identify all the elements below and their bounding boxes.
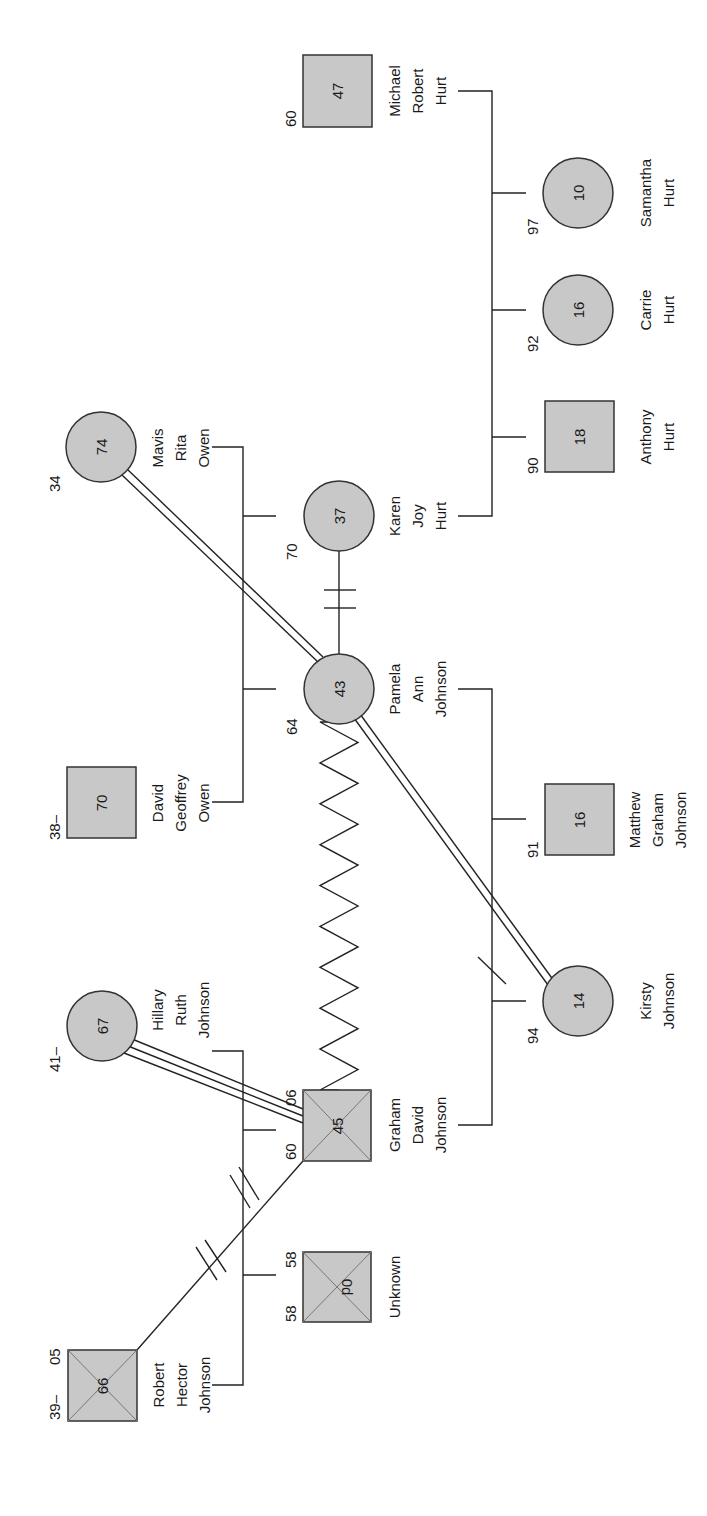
name-line-2: Hurt <box>660 422 677 451</box>
name-line-1: Carrie <box>637 290 654 331</box>
person-mavis[interactable]: 74 34 Mavis Rita Owen <box>46 412 212 492</box>
name-line-2: Hurt <box>660 295 677 324</box>
name-line-2: Ann <box>409 676 426 703</box>
death-year: 05 <box>46 1348 63 1365</box>
age-label: 18 <box>571 429 588 446</box>
name-line-1: Matthew <box>626 791 643 848</box>
age-label: 14 <box>570 993 587 1010</box>
name-line-1: Anthony <box>637 409 654 465</box>
person-michael[interactable]: 47 60 Michael Robert Hurt <box>282 55 449 127</box>
name-line-1: Unknown <box>386 1256 403 1319</box>
family-line-david-mavis <box>212 447 276 802</box>
name-line-3: Owen <box>195 428 212 467</box>
birth-year: 38– <box>46 814 63 840</box>
person-david[interactable]: 70 38– David Geoffrey Owen <box>46 767 212 840</box>
person-karen[interactable]: 37 70 Karen Joy Hurt <box>283 481 449 560</box>
person-graham[interactable]: 45 60 06 Graham David Johnson <box>282 1089 449 1161</box>
name-line-3: Johnson <box>672 792 689 849</box>
name-line-1: Karen <box>386 496 403 536</box>
age-label: 16 <box>571 812 588 829</box>
birth-year: 60 <box>282 110 299 127</box>
name-line-3: Johnson <box>432 1097 449 1154</box>
age-label: 70 <box>93 795 110 812</box>
person-anthony[interactable]: 18 90 Anthony Hurt <box>524 401 677 474</box>
name-line-2: Geoffrey <box>172 774 189 832</box>
name-line-2: Rita <box>172 434 189 461</box>
person-unknown[interactable]: 0d 58 58 Unknown <box>282 1251 403 1322</box>
name-line-1: Pamela <box>386 663 403 715</box>
death-year: 58 <box>282 1251 299 1268</box>
relationship-pamela-karen-cutoff <box>324 551 356 654</box>
age-label: 67 <box>94 1018 111 1035</box>
name-line-1: Samantha <box>637 158 654 227</box>
name-line-2: Joy <box>409 504 426 528</box>
birth-year: 64 <box>283 718 300 735</box>
birth-year: 92 <box>524 335 541 352</box>
name-line-3: Hurt <box>432 501 449 530</box>
person-matthew[interactable]: 16 91 Matthew Graham Johnson <box>524 784 689 858</box>
birth-year: 39– <box>46 1394 63 1420</box>
name-line-1: Kirsty <box>637 982 654 1020</box>
name-line-2: Robert <box>409 68 426 114</box>
name-line-2: David <box>409 1106 426 1144</box>
name-line-3: Johnson <box>432 661 449 718</box>
name-line-3: Owen <box>195 783 212 822</box>
relationship-graham-pamela-conflict <box>320 722 358 1090</box>
name-line-3: Johnson <box>196 1357 213 1414</box>
birth-year: 97 <box>524 218 541 235</box>
age-label: 43 <box>331 681 348 698</box>
age-label: 47 <box>329 83 346 100</box>
person-carrie[interactable]: 16 92 Carrie Hurt <box>524 275 677 352</box>
birth-year: 58 <box>282 1305 299 1322</box>
birth-year: 90 <box>524 457 541 474</box>
family-line-karen-michael <box>458 91 526 516</box>
birth-year: 60 <box>282 1143 299 1160</box>
age-label: 45 <box>329 1118 346 1135</box>
name-line-3: Hurt <box>432 76 449 105</box>
name-line-2: Ruth <box>172 994 189 1026</box>
birth-year: 34 <box>46 475 63 492</box>
genogram-canvas: 66 39– 05 Robert Hector Johnson 0d 58 58… <box>0 0 707 1516</box>
name-line-2: Graham <box>649 793 666 847</box>
person-samantha[interactable]: 10 97 Samantha Hurt <box>524 158 677 235</box>
birth-year: 70 <box>283 543 300 560</box>
age-label: 0d <box>339 1279 356 1296</box>
name-line-1: David <box>149 784 166 822</box>
person-robert[interactable]: 66 39– 05 Robert Hector Johnson <box>46 1348 213 1421</box>
name-line-2: Johnson <box>660 973 677 1030</box>
name-line-2: Hector <box>173 1363 190 1407</box>
relationship-mavis-pamela-close <box>122 469 323 662</box>
relationship-robert-graham-cutoff <box>137 1161 303 1350</box>
age-label: 74 <box>93 439 110 456</box>
age-label: 66 <box>94 1378 111 1395</box>
name-line-1: Robert <box>150 1362 167 1408</box>
name-line-1: Michael <box>386 65 403 117</box>
person-hillary[interactable]: 67 41– Hillary Ruth Johnson <box>46 982 212 1072</box>
name-line-1: Graham <box>386 1098 403 1152</box>
birth-year: 91 <box>524 841 541 858</box>
age-label: 10 <box>570 185 587 202</box>
age-label: 37 <box>331 508 348 525</box>
birth-year: 41– <box>46 1046 63 1072</box>
age-label: 16 <box>570 302 587 319</box>
person-kirsty[interactable]: 14 94 Kirsty Johnson <box>524 966 677 1044</box>
name-line-1: Mavis <box>149 428 166 467</box>
death-year: 06 <box>282 1089 299 1106</box>
name-line-2: Hurt <box>660 178 677 207</box>
name-line-1: Hillary <box>149 989 166 1031</box>
birth-year: 94 <box>524 1027 541 1044</box>
name-line-3: Johnson <box>195 982 212 1039</box>
